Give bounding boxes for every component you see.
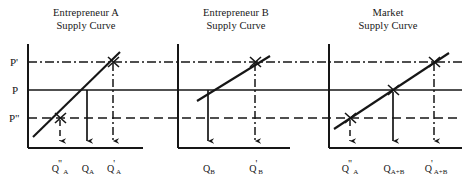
q-base: Q (82, 163, 89, 174)
panel-b-title-line2: Supply Curve (180, 19, 292, 32)
panel-b-title-line1: Entrepreneur B (180, 6, 292, 19)
supply-curve-figure: Entrepreneur A Supply Curve Entrepreneur… (0, 0, 464, 178)
q-prime: ' (431, 158, 433, 169)
q-sub: A (89, 168, 94, 176)
panel-market-drop-arrows (350, 63, 434, 141)
q-sub: A+B (434, 168, 448, 176)
price-axis-label-p-low: P" (9, 113, 20, 124)
panel-a-supply-curve (33, 52, 120, 137)
panel-b-drop-arrows (208, 63, 255, 141)
quantity-label-market-q-prime-a-plus-b: Q'A+B (418, 160, 454, 175)
quantity-label-market-q-a-plus-b: QA+B (376, 160, 412, 175)
quantity-label-market-q-double-prime-a: Q"A (336, 160, 364, 175)
price-axis-label-p-high: P' (10, 57, 18, 68)
q-prime: ' (113, 158, 115, 169)
quantity-label-q-double-prime-a: Q"A (46, 160, 74, 175)
quantity-label-q-a: QA (74, 160, 102, 175)
quantity-label-q-b: QB (195, 160, 223, 175)
quantity-label-q-prime-a: Q'A (100, 160, 128, 175)
panel-a-axes (28, 44, 143, 148)
panel-market-axes (329, 44, 462, 148)
panel-title-entrepreneur-a: Entrepreneur A Supply Curve (30, 6, 142, 32)
q-sub: B (258, 168, 263, 176)
q-sub: A (63, 168, 68, 176)
panel-b-axes (178, 44, 290, 148)
panel-title-entrepreneur-b: Entrepreneur B Supply Curve (180, 6, 292, 32)
price-axis-label-p-mid: P (12, 85, 18, 96)
q-base: Q (384, 163, 391, 174)
q-sub: A+B (391, 168, 405, 176)
q-prime: " (348, 158, 352, 169)
q-sub: B (210, 168, 215, 176)
q-sub: A (353, 168, 358, 176)
quantity-label-q-prime-b: Q'B (242, 160, 270, 175)
panel-title-market: Market Supply Curve (332, 6, 444, 32)
q-prime: ' (255, 158, 257, 169)
panel-market-title-line1: Market (332, 6, 444, 19)
q-prime: " (58, 158, 62, 169)
panel-a-title-line2: Supply Curve (30, 19, 142, 32)
q-sub: A (116, 168, 121, 176)
panel-a-title-line1: Entrepreneur A (30, 6, 142, 19)
panel-market-title-line2: Supply Curve (332, 19, 444, 32)
